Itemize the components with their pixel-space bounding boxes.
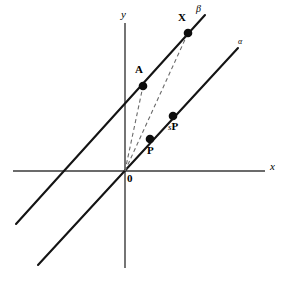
dashed-origin-to-x — [125, 33, 188, 171]
geometry-diagram: y x 0 β α X A sP P — [0, 0, 287, 289]
point-a — [139, 82, 148, 91]
line-alpha-label: α — [238, 38, 242, 46]
point-a-label: A — [135, 64, 143, 75]
y-axis-label: y — [121, 9, 126, 20]
point-sp-label-vector: P — [172, 120, 179, 132]
origin-label: 0 — [127, 173, 133, 184]
point-x — [184, 29, 193, 38]
point-p — [146, 135, 155, 144]
line-alpha — [38, 48, 238, 265]
point-sp — [169, 112, 178, 121]
point-sp-label: sP — [168, 121, 178, 132]
diagram-canvas — [0, 0, 287, 289]
x-axis-label: x — [270, 161, 275, 172]
line-beta-label: β — [196, 4, 201, 14]
point-x-label: X — [178, 12, 186, 23]
dashed-origin-to-a — [125, 86, 143, 171]
point-p-label: P — [147, 145, 154, 156]
